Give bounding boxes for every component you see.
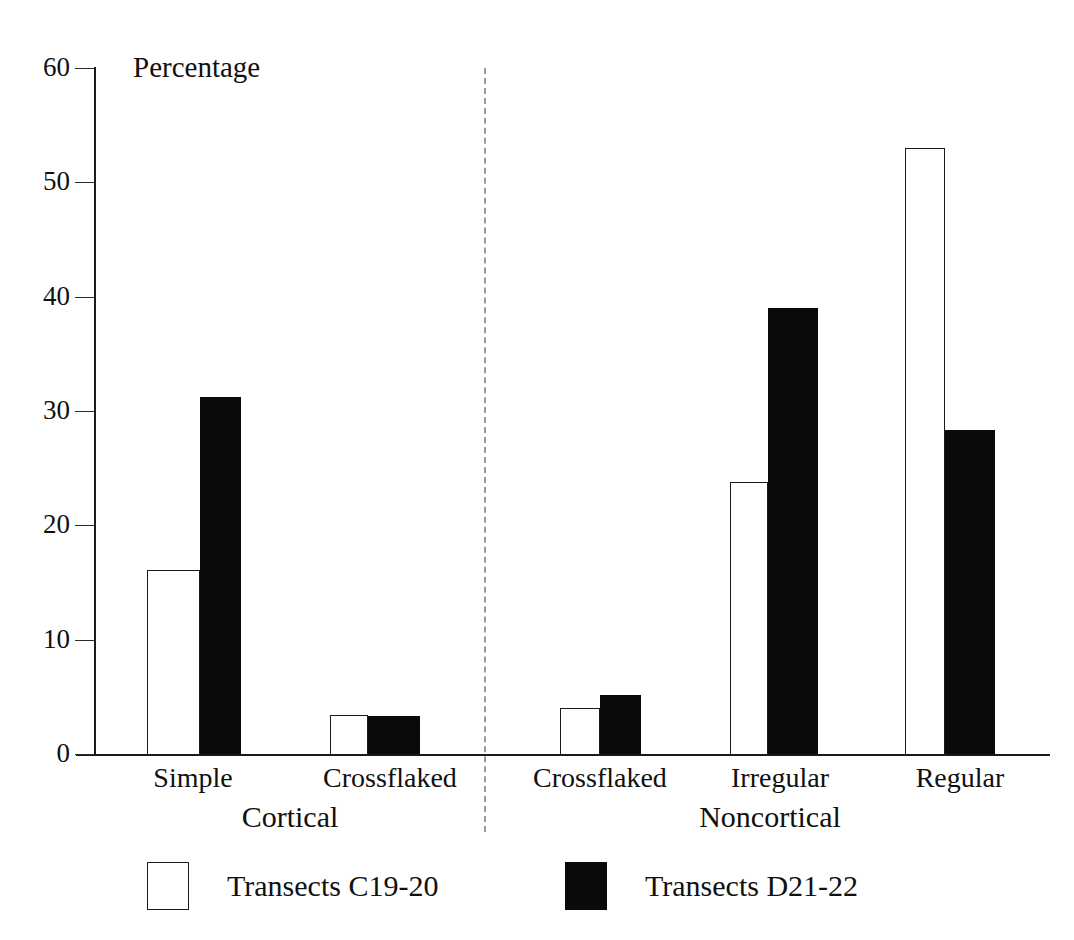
- bar-irregular-d21-22: [768, 308, 818, 754]
- group-divider: [484, 68, 486, 832]
- bar-chart-figure: Percentage 6050403020100 Simple Crossfla…: [0, 0, 1074, 940]
- legend-entry-transects-d21-22: Transects D21-22: [565, 862, 858, 910]
- bar-crossflaked-d21-22: [600, 695, 641, 754]
- category-label-simple: Simple: [113, 761, 273, 795]
- bar-simple-c19-20: [147, 570, 200, 754]
- legend-swatch-filled-icon: [565, 862, 607, 910]
- bar-simple-d21-22: [200, 397, 241, 754]
- category-label-regular: Regular: [870, 761, 1050, 795]
- bar-regular-d21-22: [945, 430, 995, 754]
- category-label-irregular: Irregular: [690, 761, 870, 795]
- bar-crossflaked-d21-22: [368, 716, 420, 754]
- legend-swatch-open-icon: [147, 862, 189, 910]
- category-label-cortical-crossflaked: Crossflaked: [280, 761, 500, 795]
- bar-regular-c19-20: [905, 148, 945, 754]
- group-label-cortical: Cortical: [180, 799, 400, 835]
- category-label-noncortical-crossflaked: Crossflaked: [490, 761, 710, 795]
- bar-crossflaked-c19-20: [560, 708, 600, 754]
- group-label-noncortical: Noncortical: [640, 799, 900, 835]
- legend-label-transects-c19-20: Transects C19-20: [227, 869, 438, 903]
- bar-crossflaked-c19-20: [330, 715, 368, 754]
- chart-legend: Transects C19-20 Transects D21-22: [0, 862, 1074, 922]
- legend-label-transects-d21-22: Transects D21-22: [645, 869, 858, 903]
- legend-entry-transects-c19-20: Transects C19-20: [147, 862, 438, 910]
- bars-layer: [0, 0, 1074, 756]
- bar-irregular-c19-20: [730, 482, 768, 754]
